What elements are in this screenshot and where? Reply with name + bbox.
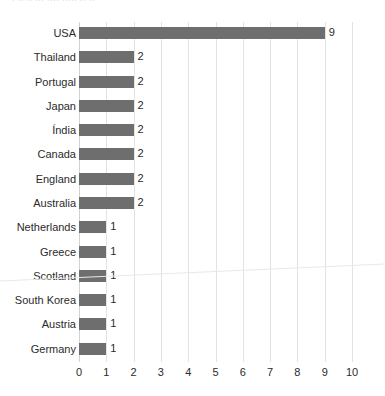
bar-value-label: 2 bbox=[138, 121, 144, 138]
category-label: South Korea bbox=[0, 289, 76, 312]
bar-row: 1 bbox=[79, 265, 352, 288]
x-tick-label: 7 bbox=[267, 364, 273, 380]
bar bbox=[79, 221, 106, 233]
x-tick-label: 9 bbox=[322, 364, 328, 380]
category-label: USA bbox=[0, 22, 76, 45]
clipped-title-text: · ·· ·· ··· ···· ····· ·· ·· bbox=[12, 0, 202, 5]
bar-value-label: 2 bbox=[138, 48, 144, 65]
category-label: Japan bbox=[0, 95, 76, 118]
bar-row: 2 bbox=[79, 119, 352, 142]
bar-value-label: 1 bbox=[110, 340, 116, 357]
bar bbox=[79, 294, 106, 306]
category-label: Germany bbox=[0, 338, 76, 361]
bar-value-label: 1 bbox=[110, 218, 116, 235]
x-tick-label: 10 bbox=[346, 364, 358, 380]
bar-row: 2 bbox=[79, 71, 352, 94]
bar-value-label: 9 bbox=[329, 24, 335, 41]
bar bbox=[79, 318, 106, 330]
bar bbox=[79, 124, 134, 136]
bar bbox=[79, 51, 134, 63]
category-label: Netherlands bbox=[0, 216, 76, 239]
x-tick-label: 0 bbox=[76, 364, 82, 380]
bar-rows: 92222222111111 bbox=[79, 22, 352, 362]
bar bbox=[79, 27, 325, 39]
bar bbox=[79, 100, 134, 112]
x-tick-label: 4 bbox=[185, 364, 191, 380]
category-label: Greece bbox=[0, 241, 76, 264]
x-tick-label: 1 bbox=[103, 364, 109, 380]
x-tick-label: 2 bbox=[131, 364, 137, 380]
bar-chart: · ·· ·· ··· ···· ····· ·· ·· USAThailand… bbox=[0, 0, 385, 396]
bar bbox=[79, 246, 106, 258]
bar bbox=[79, 173, 134, 185]
bar-row: 2 bbox=[79, 168, 352, 191]
bar-row: 2 bbox=[79, 143, 352, 166]
bar-value-label: 1 bbox=[110, 243, 116, 260]
bar bbox=[79, 148, 134, 160]
bar-value-label: 1 bbox=[110, 315, 116, 332]
bar bbox=[79, 76, 134, 88]
bar-row: 2 bbox=[79, 46, 352, 69]
bar-row: 1 bbox=[79, 216, 352, 239]
category-label: Australia bbox=[0, 192, 76, 215]
x-tick-label: 6 bbox=[240, 364, 246, 380]
x-tick-label: 5 bbox=[212, 364, 218, 380]
category-label: England bbox=[0, 168, 76, 191]
bar bbox=[79, 197, 134, 209]
bar-row: 1 bbox=[79, 289, 352, 312]
bar-row: 2 bbox=[79, 95, 352, 118]
bar-value-label: 1 bbox=[110, 291, 116, 308]
bar-value-label: 2 bbox=[138, 194, 144, 211]
bar-value-label: 2 bbox=[138, 170, 144, 187]
category-label: Thailand bbox=[0, 46, 76, 69]
category-label: Índia bbox=[0, 119, 76, 142]
plot-area: 92222222111111 bbox=[79, 22, 352, 362]
x-tick-label: 3 bbox=[158, 364, 164, 380]
bar-value-label: 2 bbox=[138, 73, 144, 90]
bar-value-label: 2 bbox=[138, 145, 144, 162]
category-label: Scotland bbox=[0, 265, 76, 288]
category-label: Portugal bbox=[0, 71, 76, 94]
bar bbox=[79, 270, 106, 282]
category-label: Canada bbox=[0, 143, 76, 166]
bar-row: 1 bbox=[79, 338, 352, 361]
gridline-10 bbox=[352, 22, 353, 362]
bar-value-label: 1 bbox=[110, 267, 116, 284]
bar-row: 1 bbox=[79, 313, 352, 336]
bar-value-label: 2 bbox=[138, 97, 144, 114]
bar-row: 9 bbox=[79, 22, 352, 45]
category-axis-labels: USAThailandPortugalJapanÍndiaCanadaEngla… bbox=[0, 22, 76, 362]
value-axis-tick-labels: 012345678910 bbox=[79, 364, 352, 384]
bar bbox=[79, 343, 106, 355]
x-tick-label: 8 bbox=[294, 364, 300, 380]
bar-row: 1 bbox=[79, 241, 352, 264]
bar-row: 2 bbox=[79, 192, 352, 215]
category-label: Austria bbox=[0, 313, 76, 336]
